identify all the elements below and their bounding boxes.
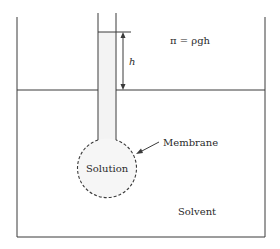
membrane-label: Membrane bbox=[163, 137, 218, 148]
height-arrow-head-up bbox=[121, 32, 126, 38]
tube-solution-column bbox=[99, 32, 116, 140]
height-label: h bbox=[129, 56, 135, 67]
diagram-canvas: π = ρgh h Membrane Solution Solvent bbox=[0, 0, 280, 249]
equation-label: π = ρgh bbox=[170, 35, 211, 46]
height-arrow-head-down bbox=[121, 84, 126, 90]
solvent-label: Solvent bbox=[178, 206, 216, 217]
membrane-pointer-head bbox=[136, 149, 143, 155]
membrane-pointer-line bbox=[140, 142, 159, 152]
solution-label: Solution bbox=[86, 163, 129, 174]
osmosis-diagram: π = ρgh h Membrane Solution Solvent bbox=[0, 0, 280, 249]
